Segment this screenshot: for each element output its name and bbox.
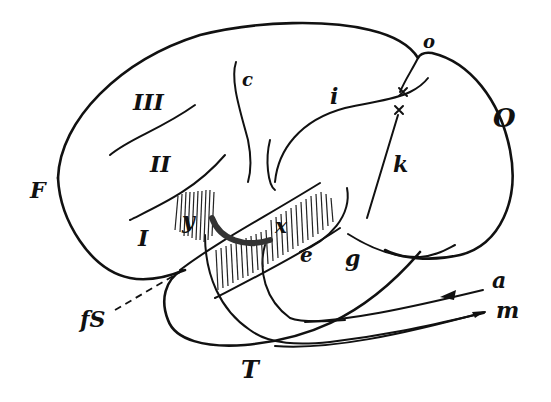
label-o: o xyxy=(423,31,435,52)
label-gyrus-I: I xyxy=(137,225,149,251)
label-m: m xyxy=(496,297,519,323)
sulcus-g xyxy=(348,234,455,257)
cross-mark-lower xyxy=(395,106,403,114)
label-i: i xyxy=(330,83,338,109)
sulcus-curve-right xyxy=(268,140,275,190)
label-x: x xyxy=(274,214,288,238)
label-fS: fS xyxy=(78,306,105,332)
acoustic-path-line xyxy=(305,290,483,322)
acoustic-arrowhead xyxy=(440,290,456,300)
occipital-notch-line xyxy=(400,58,418,92)
label-gyrus-III: III xyxy=(132,89,165,115)
frontal-lower-outline xyxy=(58,178,185,279)
brain-diagram: F O o T fS I II III c i k g e x y a m xyxy=(0,0,551,402)
label-e: e xyxy=(300,243,313,267)
label-F: F xyxy=(29,177,47,203)
label-gyrus-II: II xyxy=(149,151,171,177)
sulcus-inferior-frontal xyxy=(130,155,225,220)
label-g: g xyxy=(345,245,360,271)
label-c: c xyxy=(242,69,253,90)
label-a: a xyxy=(492,267,506,293)
label-y: y xyxy=(181,207,197,233)
temporal-outer-loop xyxy=(164,252,420,346)
motor-path-line xyxy=(275,312,485,347)
label-O: O xyxy=(493,103,516,133)
label-k: k xyxy=(393,151,408,177)
label-T: T xyxy=(241,355,261,384)
motor-arrowhead xyxy=(472,311,485,318)
